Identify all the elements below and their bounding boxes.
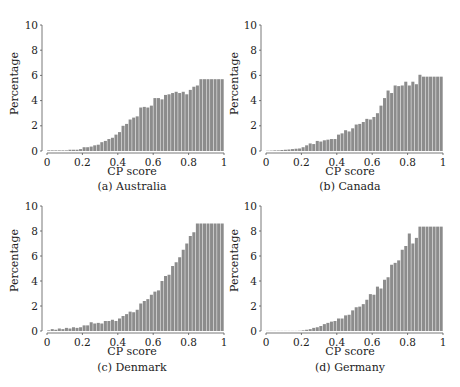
bar (146, 108, 149, 151)
bar (178, 93, 181, 151)
bar (348, 131, 351, 151)
panel-caption: (b) Canada (240, 180, 460, 193)
bar (196, 85, 199, 151)
bar (139, 108, 142, 151)
bar (150, 106, 153, 151)
bar (132, 118, 135, 151)
bar (418, 227, 421, 331)
bar (337, 135, 340, 151)
bar (129, 312, 132, 331)
bar (362, 304, 365, 331)
y-tick-label: 10 (244, 200, 257, 212)
x-axis-label: CP score (22, 345, 242, 358)
y-tick-label: 2 (250, 119, 257, 131)
bar (305, 145, 308, 151)
bar (440, 77, 443, 151)
bar (326, 323, 329, 331)
y-tick-label: 6 (31, 69, 38, 81)
bar (362, 122, 365, 151)
bar (217, 224, 220, 332)
bar (440, 227, 443, 331)
chart-panel-australia: 024681000.20.40.60.81 Percentage CP scor… (0, 0, 230, 190)
bar-chart-canada: 024681000.20.40.60.81 (230, 0, 460, 190)
bar (143, 301, 146, 331)
bar (355, 125, 358, 151)
bar (90, 147, 93, 151)
bar (369, 294, 372, 331)
bar (429, 77, 432, 151)
bar (76, 328, 79, 331)
bar (86, 147, 89, 151)
bar (150, 295, 153, 331)
bars (266, 75, 443, 151)
bar (404, 82, 407, 151)
bar (217, 79, 220, 151)
bar (415, 238, 418, 331)
bar (210, 224, 213, 332)
bar (348, 315, 351, 331)
bar (68, 150, 71, 151)
bar (65, 150, 68, 151)
bar (192, 232, 195, 331)
bar (72, 150, 75, 151)
bar (404, 246, 407, 331)
bar (312, 144, 315, 151)
bar (397, 260, 400, 331)
panel-caption: (c) Denmark (22, 361, 242, 374)
bar (394, 85, 397, 151)
bar (298, 148, 301, 151)
bar (199, 79, 202, 151)
bars (266, 227, 443, 331)
bar (100, 142, 103, 151)
bar (422, 227, 425, 331)
bar (189, 236, 192, 331)
bar (273, 150, 276, 151)
bar (139, 304, 142, 332)
panel-caption: (a) Australia (22, 180, 242, 193)
bar (111, 320, 114, 331)
bar (312, 328, 315, 331)
bar (136, 310, 139, 331)
bar (104, 321, 107, 331)
bar (358, 307, 361, 331)
bar (379, 106, 382, 151)
bar (207, 79, 210, 151)
bar (114, 321, 117, 331)
bar (79, 149, 82, 151)
bar (185, 244, 188, 332)
y-tick-label: 4 (31, 94, 38, 106)
y-tick-label: 0 (250, 145, 257, 157)
bar (203, 79, 206, 151)
bar (309, 329, 312, 331)
y-tick-label: 8 (250, 44, 257, 56)
bar (118, 319, 121, 332)
bar (387, 277, 390, 331)
bar (51, 329, 54, 331)
bar (189, 90, 192, 151)
bar (408, 85, 411, 151)
bar (164, 95, 167, 151)
bar (90, 322, 93, 331)
bar (171, 93, 174, 151)
bar (153, 98, 156, 151)
bar (93, 145, 96, 151)
y-tick-label: 0 (31, 325, 38, 337)
bar (351, 310, 354, 331)
y-tick-label: 2 (31, 300, 38, 312)
bar (125, 124, 128, 151)
bar (54, 150, 57, 151)
bar (168, 275, 171, 331)
bar (341, 319, 344, 332)
bar-chart-australia: 024681000.20.40.60.81 (0, 0, 230, 190)
bar (295, 149, 298, 151)
bar (436, 227, 439, 331)
bar (157, 98, 160, 151)
bar (61, 150, 64, 151)
bar (93, 324, 96, 332)
bar (316, 141, 319, 151)
bar (107, 321, 110, 331)
y-tick-label: 6 (250, 250, 257, 262)
y-tick-label: 2 (31, 119, 38, 131)
bar (358, 124, 361, 151)
bar (214, 79, 217, 151)
